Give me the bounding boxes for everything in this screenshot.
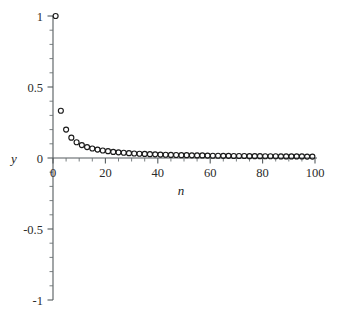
data-point	[168, 152, 173, 157]
y-axis-title: y	[9, 151, 17, 166]
data-point	[106, 149, 111, 154]
chart-screenshot: 020406080100 -1-0.500.51 n y	[0, 0, 339, 316]
data-point	[153, 152, 158, 157]
x-axis-tick-label: 100	[306, 166, 325, 180]
data-point	[116, 150, 121, 155]
data-point	[53, 14, 58, 19]
data-point	[74, 140, 79, 145]
data-point	[174, 153, 179, 158]
data-point	[184, 153, 189, 158]
x-tick-labels-group: 020406080100	[50, 166, 325, 180]
data-point	[205, 153, 210, 158]
y-tick-labels-group: -1-0.500.51	[23, 10, 43, 308]
data-point	[147, 152, 152, 157]
x-axis-tick-label: 80	[256, 166, 269, 180]
x-axis-tick-label: 20	[99, 166, 112, 180]
y-axis-tick-label: 0	[37, 152, 43, 166]
data-point	[79, 143, 84, 148]
data-point	[126, 151, 131, 156]
data-point	[64, 127, 69, 132]
data-point	[132, 151, 137, 156]
y-axis-tick-label: -0.5	[23, 223, 43, 237]
data-point	[200, 153, 205, 158]
y-axis-tick-label: 0.5	[27, 81, 43, 95]
data-point	[85, 145, 90, 150]
data-point	[163, 152, 168, 157]
scatter-plot-svg: 020406080100 -1-0.500.51 n y	[0, 0, 339, 316]
data-point	[111, 149, 116, 154]
data-point	[142, 151, 147, 156]
data-point	[69, 135, 74, 140]
y-axis-tick-label: 1	[37, 10, 43, 24]
data-points-group	[53, 14, 315, 160]
x-axis-title: n	[178, 183, 185, 198]
data-point	[100, 148, 105, 153]
plot-area: 020406080100 -1-0.500.51 n y	[0, 0, 339, 316]
x-axis-tick-label: 40	[152, 166, 165, 180]
data-point	[137, 151, 142, 156]
data-point	[121, 150, 126, 155]
data-point	[95, 147, 100, 152]
data-point	[58, 108, 63, 113]
data-point	[90, 146, 95, 151]
data-point	[179, 153, 184, 158]
data-point	[158, 152, 163, 157]
y-axis-tick-label: -1	[33, 294, 43, 308]
data-point	[195, 153, 200, 158]
x-axis-tick-label: 60	[204, 166, 217, 180]
data-point	[189, 153, 194, 158]
x-axis-tick-label: 0	[50, 166, 56, 180]
